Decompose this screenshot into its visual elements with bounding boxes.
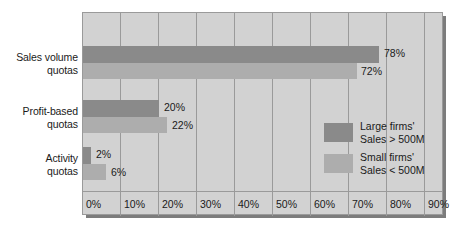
tickline-20 — [158, 192, 159, 216]
x-tick-label-60: 60% — [314, 198, 335, 210]
category-label-activity-quotas: Activity quotas — [0, 152, 78, 177]
bar-profit-based-large-firms — [83, 100, 159, 117]
legend-item-small-firms: Small firms' Sales < 500M — [324, 152, 442, 183]
category-label-line1: Sales volume — [0, 51, 78, 64]
bar-value-profit-based-large-firms: 20% — [164, 101, 185, 113]
x-axis-tick-band: 0% 10% 20% 30% 40% 50% 60% 70% 80% 90% — [83, 192, 442, 216]
category-label-profit-based-quotas: Profit-based quotas — [0, 105, 78, 130]
x-tick-label-10: 10% — [124, 198, 145, 210]
category-label-line2: quotas — [0, 64, 78, 77]
legend-label-small-firms: Small firms' Sales < 500M — [360, 151, 425, 176]
category-label-line1: Profit-based — [0, 105, 78, 118]
legend-label-line1: Large firms' — [360, 120, 425, 133]
bar-activity-small-firms — [83, 164, 106, 180]
x-tick-label-20: 20% — [162, 198, 183, 210]
legend-swatch-large-firms — [324, 123, 353, 142]
bar-sales-volume-large-firms — [83, 46, 379, 63]
tickline-40 — [234, 192, 235, 216]
tickline-70 — [348, 192, 349, 216]
bar-value-profit-based-small-firms: 22% — [172, 119, 193, 131]
tickline-50 — [272, 192, 273, 216]
tickline-60 — [310, 192, 311, 216]
x-tick-label-70: 70% — [352, 198, 373, 210]
category-label-line2: quotas — [0, 118, 78, 131]
tickline-80 — [386, 192, 387, 216]
legend-label-large-firms: Large firms' Sales > 500M — [360, 120, 425, 145]
gridline-40 — [234, 13, 235, 191]
bar-value-activity-large-firms: 2% — [96, 148, 111, 160]
x-tick-label-30: 30% — [200, 198, 221, 210]
tickline-90 — [424, 192, 425, 216]
legend-label-line1: Small firms' — [360, 151, 425, 164]
gridline-60 — [310, 13, 311, 191]
tickline-30 — [196, 192, 197, 216]
x-tick-label-50: 50% — [276, 198, 297, 210]
x-tick-label-80: 80% — [390, 198, 411, 210]
bar-value-sales-volume-small-firms: 72% — [361, 65, 382, 77]
x-tick-label-90: 90% — [428, 198, 449, 210]
bar-activity-large-firms — [83, 147, 91, 164]
legend-swatch-small-firms — [324, 154, 353, 173]
category-label-sales-volume-quotas: Sales volume quotas — [0, 51, 78, 76]
tickline-10 — [120, 192, 121, 216]
category-label-line1: Activity — [0, 152, 78, 165]
bar-sales-volume-small-firms — [83, 63, 357, 79]
legend-item-large-firms: Large firms' Sales > 500M — [324, 121, 442, 152]
legend: Large firms' Sales > 500M Small firms' S… — [324, 121, 442, 183]
category-label-line2: quotas — [0, 165, 78, 178]
legend-label-line2: Sales < 500M — [360, 164, 425, 177]
plot-inner: 78% 72% 20% 22% 2% 6% Large firms' Sales… — [83, 13, 442, 191]
x-tick-label-40: 40% — [238, 198, 259, 210]
plot-area: 78% 72% 20% 22% 2% 6% Large firms' Sales… — [82, 12, 443, 215]
legend-label-line2: Sales > 500M — [360, 133, 425, 146]
bar-chart: Sales volume quotas Profit-based quotas … — [0, 0, 464, 234]
bar-value-sales-volume-large-firms: 78% — [384, 47, 405, 59]
bar-value-activity-small-firms: 6% — [111, 166, 126, 178]
bar-profit-based-small-firms — [83, 117, 167, 133]
x-tick-label-0: 0% — [86, 198, 101, 210]
gridline-50 — [272, 13, 273, 191]
gridline-30 — [196, 13, 197, 191]
